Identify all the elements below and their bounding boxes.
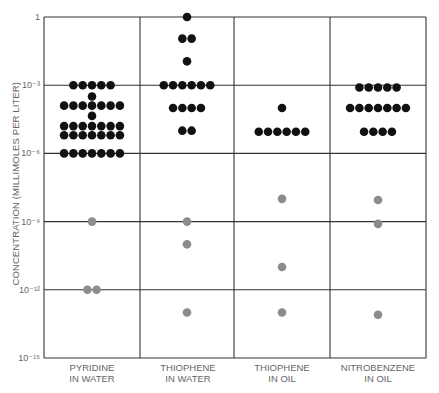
data-point	[278, 104, 287, 113]
data-point	[60, 122, 69, 131]
data-point	[116, 122, 125, 131]
category-line1: THIOPHENE	[140, 362, 236, 373]
chart-svg: 110⁻³10⁻⁶10⁻⁹10⁻¹²10⁻¹⁵	[0, 0, 439, 393]
data-point	[206, 81, 215, 90]
data-point	[364, 83, 373, 92]
data-point	[69, 122, 78, 131]
data-point	[183, 217, 192, 226]
data-point	[78, 149, 87, 158]
data-point	[88, 131, 97, 140]
data-point	[106, 149, 115, 158]
data-point	[178, 34, 187, 43]
data-point	[360, 128, 369, 137]
data-point	[106, 101, 115, 110]
data-point	[355, 83, 364, 92]
data-point	[264, 128, 273, 137]
data-point	[88, 81, 97, 90]
data-point	[374, 104, 383, 113]
data-point	[69, 101, 78, 110]
data-point	[169, 81, 178, 90]
data-point	[402, 104, 411, 113]
data-point	[346, 104, 355, 113]
data-point	[388, 128, 397, 137]
y-tick-label: 10⁻¹²	[19, 285, 40, 295]
data-point	[60, 131, 69, 140]
data-point	[116, 149, 125, 158]
data-point	[83, 286, 92, 295]
data-point	[383, 83, 392, 92]
data-point	[88, 149, 97, 158]
data-point	[183, 308, 192, 317]
data-point	[78, 81, 87, 90]
data-point	[97, 81, 106, 90]
data-point	[183, 13, 192, 22]
data-point	[78, 122, 87, 131]
data-point	[374, 83, 383, 92]
data-point	[60, 149, 69, 158]
data-point	[187, 34, 196, 43]
data-point	[78, 131, 87, 140]
data-point	[106, 81, 115, 90]
y-tick-label: 10⁻⁶	[21, 148, 40, 158]
category-line1: NITROBENZENE	[330, 362, 426, 373]
category-line2: IN WATER	[44, 373, 140, 384]
y-tick-label: 10⁻¹⁵	[18, 353, 40, 363]
data-point	[178, 126, 187, 135]
data-point	[88, 101, 97, 110]
y-tick-label: 1	[35, 12, 40, 22]
data-point	[78, 101, 87, 110]
category-line2: IN OIL	[234, 373, 330, 384]
data-point	[392, 83, 401, 92]
data-point	[60, 101, 69, 110]
data-point	[301, 128, 310, 137]
data-point	[278, 195, 287, 204]
data-point	[88, 122, 97, 131]
category-label-pyridine-water: PYRIDINE IN WATER	[44, 362, 140, 384]
data-point	[97, 122, 106, 131]
data-point	[69, 131, 78, 140]
data-point	[278, 263, 287, 272]
data-point	[254, 128, 263, 137]
data-point	[378, 128, 387, 137]
data-point	[292, 128, 301, 137]
data-point	[97, 131, 106, 140]
data-point	[197, 81, 206, 90]
data-point	[187, 104, 196, 113]
data-point	[69, 81, 78, 90]
data-point	[69, 149, 78, 158]
data-point	[88, 92, 97, 101]
category-label-thiophene-water: THIOPHENE IN WATER	[140, 362, 236, 384]
y-tick-label: 10⁻³	[22, 80, 40, 90]
y-axis-title: CONCENTRATION (MILLIMOLES PER LITER)	[10, 86, 21, 286]
data-point	[178, 81, 187, 90]
data-point	[97, 101, 106, 110]
data-point	[392, 104, 401, 113]
data-point	[383, 104, 392, 113]
data-point	[374, 311, 383, 320]
y-tick-label: 10⁻⁹	[21, 217, 40, 227]
data-point	[88, 112, 97, 121]
data-point	[364, 104, 373, 113]
data-point	[197, 104, 206, 113]
data-point	[116, 101, 125, 110]
data-point	[282, 128, 291, 137]
data-point	[97, 149, 106, 158]
data-point	[278, 308, 287, 317]
category-label-thiophene-oil: THIOPHENE IN OIL	[234, 362, 330, 384]
category-line1: THIOPHENE	[234, 362, 330, 373]
data-point	[116, 131, 125, 140]
data-point	[369, 128, 378, 137]
data-point	[374, 196, 383, 205]
data-point	[88, 217, 97, 226]
data-point	[92, 286, 101, 295]
category-label-nitrobenzene-oil: NITROBENZENE IN OIL	[330, 362, 426, 384]
data-point	[355, 104, 364, 113]
data-point	[106, 122, 115, 131]
data-point	[178, 104, 187, 113]
data-point	[374, 220, 383, 229]
category-line2: IN WATER	[140, 373, 236, 384]
data-point	[183, 240, 192, 249]
data-point	[187, 126, 196, 135]
data-point	[187, 81, 196, 90]
category-line1: PYRIDINE	[44, 362, 140, 373]
